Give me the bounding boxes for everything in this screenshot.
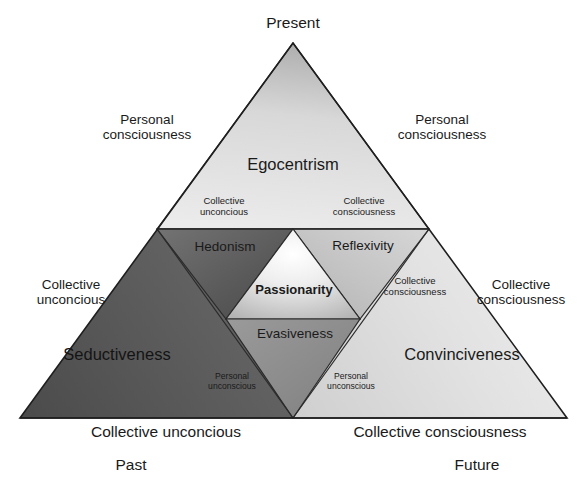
inner-top-collective-consciousness: Collective consciousness	[314, 196, 414, 217]
outer-left-collective-unconcious: Collective unconcious	[18, 277, 124, 307]
inner-top-cu-line2: unconcious	[180, 207, 268, 218]
mid-right-cc-line2: consciousness	[371, 287, 459, 298]
triangle-diagram: Present Personal consciousness Personal …	[0, 0, 588, 488]
zone-label-passionarity: Passionarity	[236, 283, 352, 298]
outer-left-cu-line1: Collective	[18, 277, 124, 292]
outer-left-personal-line1: Personal	[92, 112, 202, 127]
triangle-canvas	[0, 0, 588, 488]
inner-right-pu-line2: unconscious	[311, 382, 391, 392]
inner-left-personal-unconscious: Personal unconscious	[192, 372, 272, 391]
apex-label-present: Present	[245, 14, 341, 31]
time-label-future: Future	[434, 456, 520, 473]
outer-right-personal-line2: consciousness	[386, 127, 498, 142]
zone-label-convinciveness: Convinciveness	[378, 345, 546, 363]
zone-label-egocentrism: Egocentrism	[225, 155, 361, 173]
inner-top-collective-unconcious: Collective unconcious	[180, 196, 268, 217]
zone-label-seductiveness: Seductiveness	[37, 345, 197, 363]
inner-left-pu-line2: unconscious	[192, 382, 272, 392]
outer-right-cc-line2: consciousness	[466, 292, 576, 307]
outer-left-personal-line2: consciousness	[92, 127, 202, 142]
time-label-past: Past	[95, 456, 167, 473]
outer-right-personal-consciousness: Personal consciousness	[386, 112, 498, 142]
outer-right-personal-line1: Personal	[386, 112, 498, 127]
middle-right-collective-consciousness: Collective consciousness	[371, 276, 459, 297]
outer-right-cc-line1: Collective	[466, 277, 576, 292]
inner-top-cc-line2: consciousness	[314, 207, 414, 218]
base-right-label: Collective consciousness	[324, 423, 556, 440]
outer-right-collective-consciousness: Collective consciousness	[466, 277, 576, 307]
zone-label-hedonism: Hedonism	[181, 239, 269, 254]
zone-label-evasiveness: Evasiveness	[245, 326, 345, 341]
zone-label-reflexivity: Reflexivity	[320, 238, 406, 253]
inner-right-personal-unconscious: Personal unconscious	[311, 372, 391, 391]
base-left-label: Collective unconcious	[60, 423, 272, 440]
outer-left-cu-line2: unconcious	[18, 292, 124, 307]
outer-left-personal-consciousness: Personal consciousness	[92, 112, 202, 142]
